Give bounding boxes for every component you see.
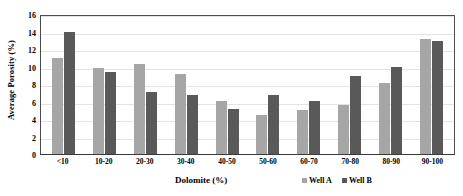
bar-group <box>411 16 452 154</box>
x-axis-title: Dolomite (%) <box>175 175 227 185</box>
legend-label: Well A <box>309 176 332 185</box>
bar-group <box>207 16 248 154</box>
bar-well-b <box>391 67 402 154</box>
x-tick-label: 60-70 <box>289 157 330 171</box>
x-tick-label: <10 <box>42 157 83 171</box>
y-tick-label: 12 <box>28 46 36 55</box>
y-tick-label: 10 <box>28 63 36 72</box>
x-tick-label: 30-40 <box>165 157 206 171</box>
bar-well-a <box>420 39 431 155</box>
bar-well-a <box>93 68 104 154</box>
chart-legend: Well AWell B <box>302 176 372 185</box>
x-tick-label: 80-90 <box>371 157 412 171</box>
bar-group <box>125 16 166 154</box>
legend-swatch-icon <box>302 178 307 183</box>
legend-item[interactable]: Well B <box>342 176 372 185</box>
bar-well-a <box>175 74 186 155</box>
bar-well-b <box>146 92 157 154</box>
y-tick-label: 16 <box>28 11 36 20</box>
bar-well-a <box>256 115 267 154</box>
y-tick-label: 0 <box>32 151 36 160</box>
legend-swatch-icon <box>342 178 347 183</box>
bar-well-b <box>64 32 75 155</box>
bar-well-a <box>52 58 63 154</box>
y-axis-tick-labels: 1614121086420 <box>22 15 38 155</box>
bar-well-b <box>187 95 198 154</box>
bar-well-b <box>309 101 320 154</box>
bar-well-a <box>216 101 227 154</box>
bar-well-a <box>379 83 390 154</box>
x-tick-label: 50-60 <box>247 157 288 171</box>
bar-chart: Average Porosity (%) 1614121086420 <1010… <box>0 0 463 196</box>
bar-well-b <box>350 76 361 154</box>
legend-item[interactable]: Well A <box>302 176 332 185</box>
x-tick-label: 20-30 <box>124 157 165 171</box>
bar-group <box>248 16 289 154</box>
bar-group <box>288 16 329 154</box>
bar-group <box>329 16 370 154</box>
y-axis-title: Average Porosity (%) <box>0 0 22 160</box>
y-tick-label: 14 <box>28 28 36 37</box>
y-tick-label: 4 <box>32 116 36 125</box>
y-tick-label: 6 <box>32 98 36 107</box>
x-tick-label: 10-20 <box>83 157 124 171</box>
y-tick-label: 8 <box>32 81 36 90</box>
bar-well-b <box>268 95 279 155</box>
x-tick-label: 90-100 <box>412 157 453 171</box>
bar-groups <box>41 16 454 154</box>
bar-well-b <box>105 72 116 154</box>
bar-well-b <box>228 109 239 155</box>
bar-well-a <box>297 110 308 154</box>
bar-well-a <box>338 105 349 154</box>
y-tick-label: 2 <box>32 133 36 142</box>
bar-well-a <box>134 64 145 154</box>
bar-group <box>84 16 125 154</box>
x-axis-tick-labels: <1010-2020-3030-4040-5050-6060-7070-8080… <box>40 157 455 171</box>
x-tick-label: 70-80 <box>330 157 371 171</box>
x-tick-label: 40-50 <box>206 157 247 171</box>
chart-footer: Dolomite (%) Well AWell B <box>40 174 455 192</box>
bar-group <box>43 16 84 154</box>
bar-group <box>166 16 207 154</box>
bar-well-b <box>432 41 443 154</box>
y-axis-title-text: Average Porosity (%) <box>6 40 16 120</box>
plot-area <box>40 15 455 155</box>
bar-group <box>370 16 411 154</box>
legend-label: Well B <box>349 176 372 185</box>
